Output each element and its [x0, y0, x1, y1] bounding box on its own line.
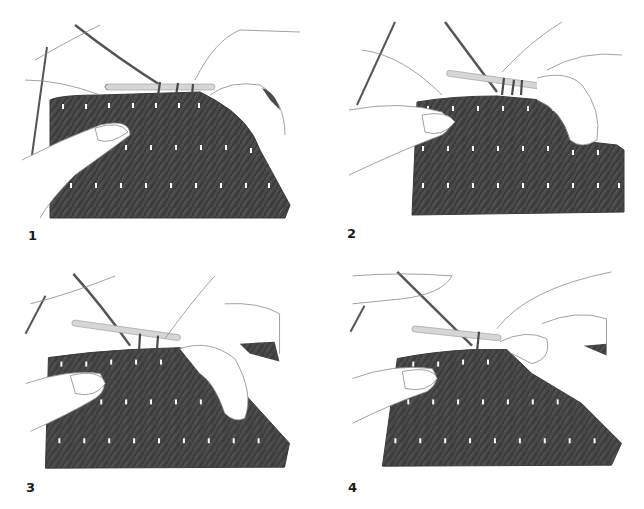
step-number-1: 1: [28, 228, 37, 243]
step-panel-1: 1: [0, 0, 322, 254]
crochet-illustration-step-3: [0, 254, 322, 508]
step-number-4: 4: [348, 480, 357, 495]
step-panel-3: 3: [0, 254, 322, 508]
crochet-illustration-step-4: [322, 254, 644, 508]
step-panel-2: 2: [322, 0, 644, 254]
step-number-3: 3: [26, 480, 35, 495]
step-number-2: 2: [347, 226, 356, 241]
step-panel-4: 4: [322, 254, 644, 508]
crochet-illustration-step-2: [322, 0, 644, 254]
crochet-illustration-step-1: [0, 0, 322, 254]
